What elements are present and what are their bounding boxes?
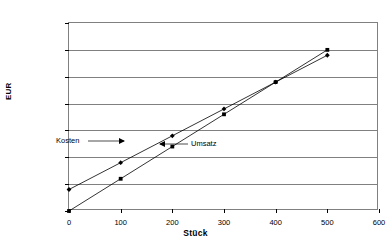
data-point-kosten [118,160,123,165]
data-point-umsatz [119,177,123,181]
data-point-umsatz [325,48,329,52]
x-tick-label: 400 [269,219,282,227]
data-point-umsatz [170,145,174,149]
data-point-kosten [67,187,72,192]
data-point-umsatz [222,112,226,116]
data-point-kosten [170,133,175,138]
x-tick-label: 500 [321,219,334,227]
data-point-kosten [325,53,330,58]
data-point-umsatz [274,80,278,84]
plot-area: 010000200003000040000500006000070000 010… [68,22,378,210]
x-tick [379,209,380,213]
x-tick-label: 300 [218,219,231,227]
x-tick-label: 200 [166,219,179,227]
x-tick-label: 600 [373,219,386,227]
y-axis-title: EUR [4,83,13,101]
series-layer [69,23,379,211]
series-line-umsatz [69,50,327,211]
series-line-kosten [69,55,327,189]
x-tick-label: 0 [67,219,71,227]
annotation-label-kosten: Kosten [56,137,79,145]
x-tick-label: 100 [114,219,127,227]
data-point-umsatz [67,209,71,213]
annotation-label-umsatz: Umsatz [191,140,216,148]
x-axis-title: Stück [0,228,391,238]
break-even-chart: EUR Stück 010000200003000040000500006000… [0,0,391,244]
data-point-kosten [222,107,227,112]
